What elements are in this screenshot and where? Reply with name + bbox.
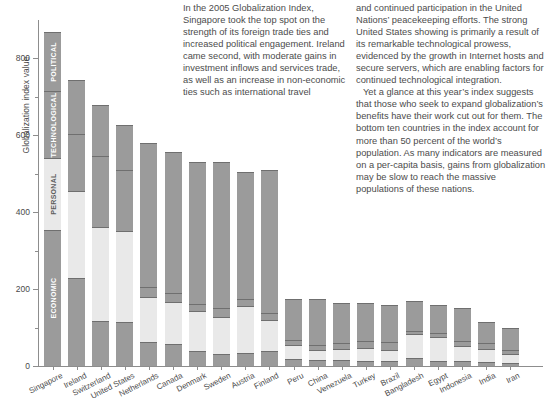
x-tick [149, 366, 150, 370]
bar-segment-political [116, 125, 133, 170]
x-axis-label-peru: Peru [285, 371, 304, 387]
bar-segment-economic: ECONOMIC [44, 230, 61, 366]
bar-segment-economic [165, 344, 182, 366]
bar-segment-economic [140, 342, 157, 366]
paragraph: and continued participation in the Unite… [356, 2, 546, 86]
bar-segment-personal [261, 320, 278, 351]
y-tick-minor [35, 251, 38, 252]
bar-segment-technological [92, 156, 109, 227]
bar-segment-political [237, 172, 254, 299]
bar-canada[interactable] [165, 152, 182, 366]
x-tick [438, 366, 439, 370]
bar-india[interactable] [478, 322, 495, 366]
bar-segment-personal [309, 350, 326, 360]
bar-segment-technological [140, 287, 157, 297]
bar-ireland[interactable] [68, 80, 85, 366]
bar-segment-personal [285, 345, 302, 360]
bar-segment-political [92, 105, 109, 157]
bar-segment-personal [430, 337, 447, 361]
bar-turkey[interactable] [357, 303, 374, 366]
bar-segment-personal [165, 302, 182, 344]
x-tick [390, 366, 391, 370]
bar-segment-personal [502, 354, 519, 362]
bar-bangladesh[interactable] [406, 301, 423, 366]
bar-segment-political [189, 162, 206, 303]
y-tick [33, 366, 38, 367]
bar-segment-political [165, 152, 182, 293]
x-tick [197, 366, 198, 370]
bar-brazil[interactable] [381, 305, 398, 367]
y-tick [33, 58, 38, 59]
y-tick-minor [35, 174, 38, 175]
article-column-1: In the 2005 Globalization Index, Singapo… [183, 2, 349, 98]
bar-egypt[interactable] [430, 305, 447, 366]
y-tick-minor [35, 328, 38, 329]
x-tick [101, 366, 102, 370]
x-tick [366, 366, 367, 370]
bar-segment-personal [116, 231, 133, 322]
bar-venezuela[interactable] [333, 303, 350, 366]
y-tick-label: 800 [2, 53, 30, 63]
bar-switzerland[interactable] [92, 105, 109, 366]
bar-segment-personal [357, 348, 374, 360]
x-tick [269, 366, 270, 370]
bar-segment-economic [116, 322, 133, 366]
x-tick [318, 366, 319, 370]
bar-indonesia[interactable] [454, 308, 471, 366]
bar-segment-economic [68, 278, 85, 366]
bar-sweden[interactable] [213, 162, 230, 366]
bar-netherlands[interactable] [140, 143, 157, 366]
bar-singapore[interactable]: POLITICALTECHNOLOGICALPERSONALECONOMIC [44, 32, 61, 366]
bar-segment-personal [68, 191, 85, 279]
bar-segment-political [502, 328, 519, 350]
x-tick [53, 366, 54, 370]
bar-china[interactable] [309, 299, 326, 366]
bar-segment-political [333, 303, 350, 344]
x-axis-label-india: India [478, 371, 498, 387]
paragraph: Yet a glance at this year’s index sugges… [356, 86, 546, 194]
bar-segment-political [261, 170, 278, 313]
bar-segment-political [454, 308, 471, 341]
bar-segment-personal [140, 297, 157, 342]
x-tick [486, 366, 487, 370]
bar-segment-political: POLITICAL [44, 32, 61, 92]
y-tick [33, 289, 38, 290]
legend-label-economic: ECONOMIC [49, 278, 56, 319]
bar-segment-political [68, 80, 85, 134]
bar-segment-technological [116, 170, 133, 232]
y-tick [33, 212, 38, 213]
legend-label-technological: TECHNOLOGICAL [49, 93, 56, 158]
bar-segment-technological [357, 341, 374, 349]
bar-finland[interactable] [261, 170, 278, 366]
y-tick-label: 200 [2, 284, 30, 294]
legend-label-political: POLITICAL [49, 42, 56, 82]
bar-segment-political [478, 322, 495, 343]
y-tick [33, 135, 38, 136]
bar-austria[interactable] [237, 172, 254, 366]
bar-united-states[interactable] [116, 125, 133, 366]
bar-segment-personal [406, 334, 423, 357]
y-axis-title: Globalization index value [21, 0, 31, 235]
bar-peru[interactable] [285, 299, 302, 366]
x-tick [77, 366, 78, 370]
bar-segment-political [140, 143, 157, 287]
bar-segment-political [381, 305, 398, 343]
bar-segment-personal [237, 306, 254, 353]
bar-segment-political [309, 299, 326, 345]
x-tick [173, 366, 174, 370]
bar-segment-technological [68, 134, 85, 191]
bar-segment-political [430, 305, 447, 333]
bar-segment-personal [478, 349, 495, 362]
bar-denmark[interactable] [189, 162, 206, 366]
bar-segment-technological: TECHNOLOGICAL [44, 91, 61, 158]
bar-iran[interactable] [502, 328, 519, 366]
bar-segment-personal [454, 346, 471, 361]
paragraph: In the 2005 Globalization Index, Singapo… [183, 2, 349, 98]
y-axis-line [38, 20, 39, 366]
x-tick [125, 366, 126, 370]
bar-segment-economic [285, 359, 302, 366]
article-column-2: and continued participation in the Unite… [356, 2, 546, 195]
bar-segment-personal [92, 227, 109, 321]
x-tick [510, 366, 511, 370]
bar-segment-economic [189, 351, 206, 366]
